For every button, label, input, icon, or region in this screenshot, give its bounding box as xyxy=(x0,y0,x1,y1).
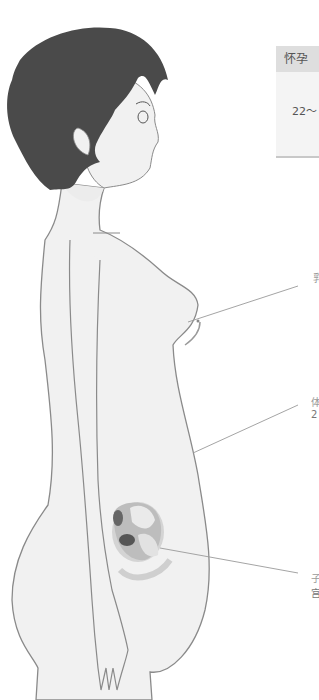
page: 怀孕 22～ 乳 体 2 子 宫 xyxy=(0,0,319,700)
label-belly-text: 体 xyxy=(311,397,319,408)
label-uterus: 子 宫 xyxy=(311,570,319,600)
label-belly: 体 2 xyxy=(311,394,319,420)
label-belly-value: 2 xyxy=(311,409,319,420)
pregnant-woman-illustration xyxy=(0,0,319,700)
leader-line-breast xyxy=(188,286,298,322)
label-breast: 乳 xyxy=(313,270,319,285)
eye xyxy=(138,111,148,123)
table-header: 怀孕 xyxy=(276,46,319,72)
leader-line-belly xyxy=(193,405,298,453)
label-breast-text: 乳 xyxy=(313,273,319,284)
table-value: 22～ xyxy=(276,102,319,118)
label-uterus-text: 子 xyxy=(311,573,319,584)
label-uterus-text-2: 宫 xyxy=(311,585,319,600)
info-table: 怀孕 22～ xyxy=(276,46,319,158)
